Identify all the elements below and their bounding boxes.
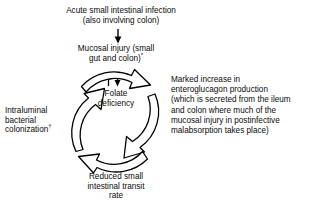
intraluminal-line1: Intraluminal xyxy=(5,106,47,115)
node-mucosal-injury-label: Mucosal injury (smallgut and colon)* xyxy=(52,44,180,63)
mucosal-injury-asterisk-marker: * xyxy=(141,52,143,58)
node-acute-infection-label: Acute small intestinal infection (also i… xyxy=(36,6,206,25)
mucosal-injury-line2: gut and colon) xyxy=(89,54,141,63)
node-intraluminal-colonization-label: Intraluminalbacterialcolonization† xyxy=(5,106,77,135)
node-enteroglucagon-label: Marked increase in enteroglucagon produc… xyxy=(171,75,309,136)
intraluminal-line2: bacterial xyxy=(5,116,36,125)
diagram-canvas: Acute small intestinal infection (also i… xyxy=(0,0,309,205)
intraluminal-dagger-marker: † xyxy=(48,123,51,129)
node-folate-deficiency-label: Folate deficiency xyxy=(84,89,148,108)
intraluminal-line3: colonization xyxy=(5,125,48,134)
node-reduced-transit-label: Reduced small intestinal transit rate xyxy=(66,172,166,201)
infection-to-mucosal-down-arrow-icon xyxy=(115,29,122,44)
